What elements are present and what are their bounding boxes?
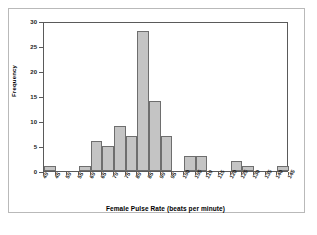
histogram-bar bbox=[161, 136, 173, 171]
y-axis-tick-label: 15 bbox=[30, 94, 37, 100]
histogram-bar bbox=[44, 166, 56, 171]
x-axis-tick-label: 135 bbox=[264, 169, 273, 180]
y-axis-tick-label: 25 bbox=[30, 44, 37, 50]
x-axis-tick-label: 125 bbox=[240, 169, 249, 180]
x-axis-tick-label: 85 bbox=[147, 172, 155, 180]
x-axis-tick-label: 70 bbox=[112, 172, 120, 180]
histogram-bar bbox=[91, 141, 103, 171]
x-axis-tick-label: 40 bbox=[42, 172, 50, 180]
x-axis-tick-label: 45 bbox=[54, 172, 62, 180]
x-axis-tick-label: 50 bbox=[65, 172, 73, 180]
x-axis-tick-label: 60 bbox=[89, 172, 97, 180]
figure-frame: Frequency 051015202530 40455055606570758… bbox=[8, 8, 305, 213]
y-axis-tick-label: 10 bbox=[30, 119, 37, 125]
histogram-bar bbox=[149, 101, 161, 171]
histogram-bar bbox=[102, 146, 114, 171]
histogram-bars bbox=[44, 23, 287, 171]
chart-canvas: Frequency 051015202530 40455055606570758… bbox=[9, 9, 304, 212]
histogram-bar bbox=[126, 136, 138, 171]
histogram-bar bbox=[114, 126, 126, 171]
x-axis-tick-label: 95 bbox=[170, 172, 178, 180]
x-axis-tick-label: 90 bbox=[159, 172, 167, 180]
x-axis-tick-label: 120 bbox=[229, 169, 238, 180]
x-axis-tick-label: 130 bbox=[252, 169, 261, 180]
x-axis-tick-label: 105 bbox=[194, 169, 203, 180]
x-axis-tick-label: 140 bbox=[275, 169, 284, 180]
y-axis-tick-label: 20 bbox=[30, 69, 37, 75]
x-axis-tick-label: 100 bbox=[182, 169, 191, 180]
x-axis-tick-label: 80 bbox=[135, 172, 143, 180]
x-axis-title: Female Pulse Rate (beats per minute) bbox=[43, 205, 288, 212]
x-axis-tick-label: 145 bbox=[287, 169, 296, 180]
x-axis-tick-label: 115 bbox=[217, 169, 226, 179]
y-axis: 051015202530 bbox=[9, 22, 43, 172]
plot-area bbox=[43, 22, 288, 172]
y-axis-tick-label: 30 bbox=[30, 19, 37, 25]
x-axis-tick-label: 65 bbox=[100, 172, 108, 180]
x-axis-tick-label: 55 bbox=[77, 172, 85, 180]
x-axis-tick-label: 110 bbox=[205, 169, 214, 179]
y-axis-tick-label: 5 bbox=[34, 144, 37, 150]
histogram-bar bbox=[137, 31, 149, 171]
y-axis-tick-label: 0 bbox=[34, 169, 37, 175]
x-axis-tick-label: 75 bbox=[124, 172, 132, 180]
histogram-bar bbox=[79, 166, 91, 171]
x-axis: 4045505560657075808590951001051101151201… bbox=[43, 172, 288, 202]
